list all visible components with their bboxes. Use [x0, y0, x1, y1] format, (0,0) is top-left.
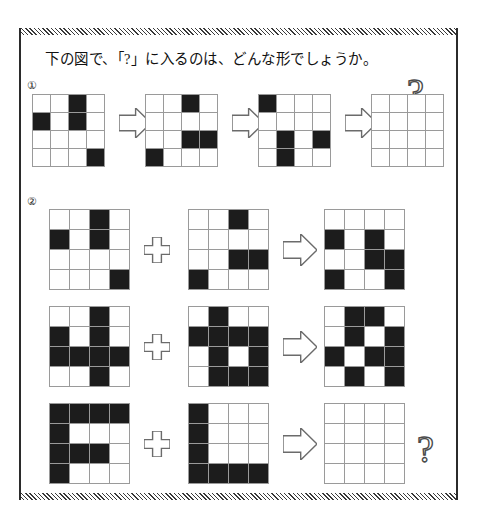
grid-cell [51, 113, 68, 130]
grid-cell [325, 444, 344, 463]
grid-cell [385, 327, 404, 346]
grid-cell [325, 210, 344, 229]
grid-cell [385, 444, 404, 463]
grid-cell [164, 131, 181, 148]
grid-cell [229, 270, 248, 289]
grid-cell [277, 131, 294, 148]
grid-cell [277, 95, 294, 112]
grid-cell [385, 250, 404, 269]
grid-cell [390, 95, 407, 112]
grid-cell [33, 149, 50, 166]
grid-cell [70, 270, 89, 289]
grid-cell [200, 113, 217, 130]
grid-cell [345, 307, 364, 326]
grid-cell [408, 149, 425, 166]
grid-cell [209, 464, 228, 483]
grid-cell [70, 367, 89, 386]
grid-cell [110, 230, 129, 249]
grid-cell [365, 307, 384, 326]
grid-cell [365, 250, 384, 269]
grid-cell [229, 307, 248, 326]
grid-cell [189, 270, 208, 289]
grid-cell [110, 250, 129, 269]
grid-cell [390, 149, 407, 166]
grid-cell [90, 404, 109, 423]
grid-cell [372, 131, 389, 148]
xor-row-1-operand-b [188, 209, 269, 290]
grid-cell [426, 113, 443, 130]
grid-cell [295, 149, 312, 166]
grid-cell [249, 367, 268, 386]
grid-cell [110, 424, 129, 443]
grid-cell [209, 404, 228, 423]
grid-cell [426, 149, 443, 166]
grid-cell [325, 424, 344, 443]
grid-cell [69, 149, 86, 166]
grid-cell [365, 444, 384, 463]
grid-cell [249, 307, 268, 326]
grid-cell [249, 210, 268, 229]
grid-cell [70, 464, 89, 483]
grid-cell [229, 327, 248, 346]
grid-cell [345, 347, 364, 366]
grid-cell [50, 464, 69, 483]
grid-cell [295, 131, 312, 148]
grid-cell [87, 149, 104, 166]
grid-cell [408, 131, 425, 148]
grid-cell [50, 307, 69, 326]
grid-cell [325, 230, 344, 249]
grid-cell [345, 444, 364, 463]
xor-row-2-operand-b [188, 306, 269, 387]
section-number-1: ① [27, 79, 37, 92]
grid-cell [70, 230, 89, 249]
grid-cell [277, 149, 294, 166]
grid-cell [345, 250, 364, 269]
xor-row-3-operand-b [188, 403, 269, 484]
grid-cell [365, 424, 384, 443]
grid-cell [189, 444, 208, 463]
grid-cell [325, 367, 344, 386]
grid-cell [110, 464, 129, 483]
grid-cell [69, 95, 86, 112]
grid-cell [182, 95, 199, 112]
grid-cell [365, 464, 384, 483]
grid-cell [249, 327, 268, 346]
plus-icon [144, 334, 170, 360]
grid-cell [209, 230, 228, 249]
grid-cell [249, 424, 268, 443]
grid-cell [365, 230, 384, 249]
grid-cell [385, 347, 404, 366]
arrow-right-icon [283, 331, 317, 363]
grid-cell [189, 424, 208, 443]
grid-cell [189, 347, 208, 366]
grid-cell [182, 149, 199, 166]
grid-cell [110, 404, 129, 423]
grid-cell [229, 424, 248, 443]
plus-icon [144, 431, 170, 457]
grid-cell [146, 95, 163, 112]
arrow-right-icon [283, 234, 317, 266]
grid-cell [70, 424, 89, 443]
grid-cell [209, 367, 228, 386]
xor-row-3-operand-a [49, 403, 130, 484]
grid-cell [325, 250, 344, 269]
grid-cell [209, 327, 228, 346]
grid-cell [229, 367, 248, 386]
grid-cell [209, 307, 228, 326]
grid-cell [164, 95, 181, 112]
grid-cell [146, 131, 163, 148]
grid-cell [90, 250, 109, 269]
question-mark-2: ? [417, 430, 434, 468]
grid-cell [189, 250, 208, 269]
grid-cell [345, 367, 364, 386]
grid-cell [70, 210, 89, 229]
grid-cell [87, 131, 104, 148]
grid-cell [90, 230, 109, 249]
grid-cell [50, 367, 69, 386]
grid-cell [229, 250, 248, 269]
grid-cell [70, 347, 89, 366]
grid-cell [110, 327, 129, 346]
grid-cell [313, 95, 330, 112]
grid-cell [189, 464, 208, 483]
grid-cell [313, 149, 330, 166]
